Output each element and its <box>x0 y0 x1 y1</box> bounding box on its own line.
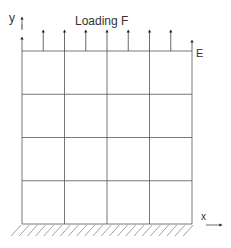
hatch-mark <box>52 225 62 236</box>
hatch-mark <box>93 225 103 236</box>
hatch-mark <box>11 225 21 236</box>
hatch-mark <box>68 225 78 236</box>
hatch-mark <box>175 225 185 236</box>
hatch-mark <box>27 225 37 236</box>
hatch-mark <box>134 225 144 236</box>
mesh-diagram: Loading F E y x <box>0 0 231 248</box>
mesh-grid <box>22 51 192 224</box>
hatch-mark <box>101 225 111 236</box>
hatch-mark <box>118 225 128 236</box>
hatch-mark <box>19 225 29 236</box>
hatch-mark <box>60 225 70 236</box>
hatch-mark <box>126 225 136 236</box>
y-axis-label: y <box>9 11 15 25</box>
hatch-mark <box>150 225 160 236</box>
edge-label: E <box>196 47 203 59</box>
hatch-mark <box>77 225 87 236</box>
x-axis-label: x <box>201 211 206 222</box>
hatch-mark <box>44 225 54 236</box>
fixed-support-hatching <box>11 225 193 236</box>
load-arrows <box>22 31 192 51</box>
hatch-mark <box>36 225 46 236</box>
hatch-mark <box>85 225 95 236</box>
loading-label: Loading F <box>75 14 128 28</box>
hatch-mark <box>109 225 119 236</box>
hatch-mark <box>183 225 193 236</box>
hatch-mark <box>159 225 169 236</box>
hatch-mark <box>142 225 152 236</box>
hatch-mark <box>167 225 177 236</box>
